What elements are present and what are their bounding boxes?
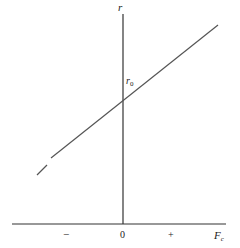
- x-axis-label: Fc: [213, 229, 225, 243]
- origin-label: 0: [120, 229, 125, 240]
- y-axis-label: r: [118, 1, 123, 13]
- relationship-line-tail: [37, 165, 47, 175]
- intercept-label: r0: [126, 75, 134, 88]
- negative-label: −: [63, 228, 69, 240]
- relationship-line: [51, 25, 218, 158]
- positive-label: +: [168, 229, 174, 240]
- diagram-canvas: r r0 − 0 + Fc: [0, 0, 240, 248]
